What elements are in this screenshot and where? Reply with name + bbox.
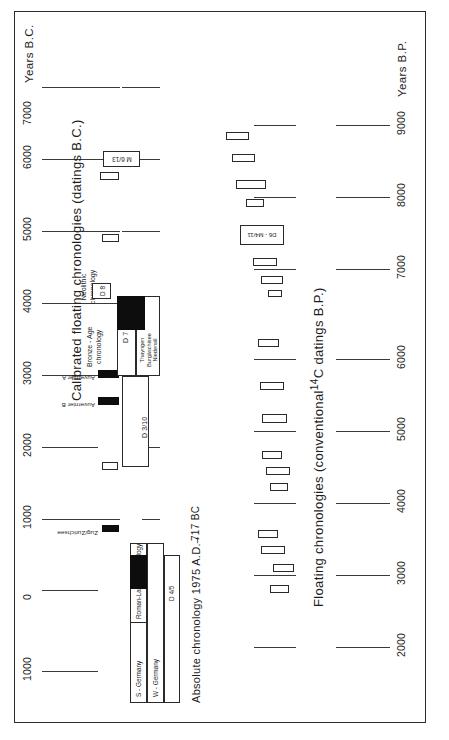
bp-bar-10 <box>258 339 279 347</box>
gridline-bp-4000 <box>336 503 390 504</box>
label-717bc: 717 BC <box>190 506 201 541</box>
axis-name-bp: Years B.P. <box>396 41 408 97</box>
bp-bar-14 <box>246 199 264 207</box>
rotated-figure-canvas: Years B.C. 1000 0 1000 2000 3000 4000 50… <box>18 15 422 719</box>
bar-label-auvernier-b: Auvernier B <box>62 402 95 409</box>
panel-title-floating-sup: 14 <box>309 378 320 390</box>
axis-name-bc: Years B.C. <box>23 24 35 83</box>
bp-bar-3 <box>261 546 285 554</box>
bp-bar-4 <box>258 530 278 538</box>
tick-label-bc-1000bc: 1000 <box>22 657 33 681</box>
gridline-bc-0 <box>42 590 98 591</box>
tick-label-bc-3000: 3000 <box>22 361 33 385</box>
gridline-bp-upper-4000 <box>254 503 296 504</box>
tick-label-bc-7000: 7000 <box>22 101 33 125</box>
gridline-bp-upper-9000 <box>254 125 296 126</box>
bar-label-zug-zurichsee: Zug/Zurichsee <box>57 530 98 537</box>
gridline-bp-5000 <box>336 431 390 432</box>
gridline-bp-8000 <box>336 197 390 198</box>
tick-label-bp-3000: 3000 <box>396 561 407 585</box>
tick-label-bc-6000: 6000 <box>22 145 33 169</box>
gridline-bp-2000 <box>336 647 390 648</box>
bp-bar-5 <box>270 483 288 491</box>
gridline-bp-upper-7000 <box>254 269 296 270</box>
bp-bar-9 <box>260 382 284 390</box>
tick-label-bp-5000: 5000 <box>396 417 407 441</box>
bar-label-d8: D 8 <box>98 286 105 296</box>
bp-bar-11 <box>268 290 282 297</box>
bar-zug-zurichsee <box>102 525 119 532</box>
bp-bar-8 <box>262 414 287 423</box>
bp-bar-6 <box>266 467 290 475</box>
legend-label-s-germany: S - Germany <box>135 661 142 697</box>
gridline-bp-upper-5000 <box>254 431 296 432</box>
bp-bar-d6-m411: D6 - M4/11 <box>240 225 284 245</box>
tick-label-bp-9000: 9000 <box>396 111 407 135</box>
panel-title-floating: Floating chronologies (conventional14C d… <box>310 287 326 607</box>
label-absolute-chronology: Absolute chronology 1975 A.D.– <box>190 537 202 703</box>
gridline-bc-7000 <box>42 87 120 88</box>
tick-label-bp-6000: 6000 <box>396 345 407 369</box>
gridline-bc-2000 <box>42 447 98 448</box>
bp-bar-13 <box>253 258 277 266</box>
bar-auvernier-b <box>98 397 119 405</box>
legend-label-d45: D 4/5 <box>168 586 175 601</box>
panel-title-floating-tail: C datings B.P.) <box>311 287 326 378</box>
tick-label-bc-2000: 2000 <box>22 433 33 457</box>
gridline-bc-1000 <box>42 519 120 520</box>
gridline-bp-upper-6000 <box>254 359 296 360</box>
gridline-bc-1000bc <box>42 671 98 672</box>
gridline-bp-upper-3000 <box>254 575 296 576</box>
tick-label-bc-1000: 1000 <box>22 505 33 529</box>
bp-bar-17 <box>226 132 249 140</box>
panel-title-calibrated: Calibrated floating chronologies (dating… <box>70 119 84 401</box>
figure-page: Years B.C. 1000 0 1000 2000 3000 4000 50… <box>0 0 449 740</box>
bp-bar-16 <box>232 154 255 162</box>
tick-label-bc-0: 0 <box>22 594 33 600</box>
legend-label-w-germany: W - Germany <box>152 659 159 697</box>
tick-label-bp-4000: 4000 <box>396 489 407 513</box>
gridline-bp-7000 <box>336 269 390 270</box>
panel-title-floating-main: Floating chronologies (conventional <box>311 390 326 607</box>
bar-m613: M 6/13 <box>103 151 140 167</box>
bar-open-4900bc <box>102 234 119 242</box>
label-bronze-age-chronology: Bronze - Age chronology <box>86 327 104 367</box>
gridline2-bc-1000 <box>142 519 160 520</box>
bar-label-auvernier-a: Auvernier A <box>62 375 95 382</box>
bar-d7-solid-segment <box>117 296 145 330</box>
tick-label-bc-5000: 5000 <box>22 217 33 241</box>
tick-label-bc-4000: 4000 <box>22 289 33 313</box>
bar-label-d310: D 3/10 <box>141 417 148 438</box>
gridline-bp-6000 <box>336 359 390 360</box>
bar-auvernier-a <box>98 370 119 378</box>
tick-label-bp-2000: 2000 <box>396 633 407 657</box>
bp-bar-12 <box>261 276 283 284</box>
bp-bar-1 <box>270 585 289 593</box>
gridline2-bc-7000 <box>122 87 160 88</box>
tick-label-bp-8000: 8000 <box>396 183 407 207</box>
bar-label-d7: D 7 <box>122 332 129 343</box>
legend-cell-d45 <box>164 555 180 703</box>
gridline-bp-9000 <box>336 125 390 126</box>
page-border: Years B.C. 1000 0 1000 2000 3000 4000 50… <box>14 11 426 723</box>
label-d7-sites: Thayngen Burgäschisee Niederwil <box>139 333 159 367</box>
bp-bar-label-d6-m411: D6 - M4/11 <box>247 232 276 238</box>
gridline2-bc-5000 <box>122 231 160 232</box>
bar-open-5800bc <box>100 172 119 180</box>
bp-bar-15 <box>236 180 266 189</box>
gridline-bp-upper-2000 <box>254 647 296 648</box>
bar-d8: D 8 <box>92 283 111 299</box>
bar-open-1800bc <box>102 462 118 470</box>
gridline-bp-3000 <box>336 575 390 576</box>
bp-bar-7 <box>262 451 282 459</box>
gridline-bp-upper-8000 <box>254 197 296 198</box>
tick-label-bp-7000: 7000 <box>396 255 407 279</box>
bar-label-m613: M 6/13 <box>112 156 132 163</box>
bp-bar-2 <box>273 564 294 572</box>
